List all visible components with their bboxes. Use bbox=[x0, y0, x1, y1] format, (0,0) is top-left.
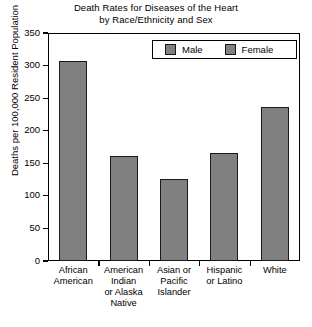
x-axis-label-1: AmericanIndianor AlaskaNative bbox=[98, 265, 148, 309]
x-axis-label-1-line-3: Native bbox=[98, 298, 148, 309]
legend-swatch-male bbox=[165, 44, 176, 55]
legend-swatch-female bbox=[225, 44, 236, 55]
bar-segment-male-0 bbox=[60, 62, 86, 128]
x-axis-label-2-line-0: Asian or bbox=[149, 265, 199, 276]
bar-segment-female-1 bbox=[111, 195, 137, 260]
bar-segment-female-0 bbox=[60, 126, 86, 260]
bar-4 bbox=[261, 107, 289, 261]
x-axis-label-2-line-1: Pacific bbox=[149, 276, 199, 287]
bar-segment-male-1 bbox=[111, 157, 137, 197]
x-axis-label-4: White bbox=[250, 265, 300, 276]
x-axis-label-0-line-0: African bbox=[48, 265, 98, 276]
bar-segment-male-2 bbox=[161, 180, 187, 209]
x-axis-label-1-line-0: American bbox=[98, 265, 148, 276]
bar-1 bbox=[110, 156, 138, 261]
x-axis-label-0: AfricanAmerican bbox=[48, 265, 98, 287]
bar-0 bbox=[59, 61, 87, 261]
chart-figure: Death Rates for Diseases of the Heart by… bbox=[0, 0, 312, 327]
x-axis-label-2: Asian orPacificIslander bbox=[149, 265, 199, 298]
bar-segment-female-2 bbox=[161, 207, 187, 260]
chart-legend: Male Female bbox=[152, 40, 297, 59]
bar-segment-male-3 bbox=[211, 154, 237, 189]
bar-2 bbox=[160, 179, 188, 261]
legend-item-male[interactable]: Male bbox=[165, 44, 203, 55]
x-axis-label-0-line-1: American bbox=[48, 276, 98, 287]
x-axis-label-3: Hispanicor Latino bbox=[199, 265, 249, 287]
bar-3 bbox=[210, 153, 238, 261]
x-axis-label-2-line-2: Islander bbox=[149, 287, 199, 298]
x-axis-label-1-line-2: or Alaska bbox=[98, 287, 148, 298]
x-axis-label-1-line-1: Indian bbox=[98, 276, 148, 287]
x-axis-label-3-line-1: or Latino bbox=[199, 276, 249, 287]
bar-segment-female-4 bbox=[262, 162, 288, 260]
legend-label-female: Female bbox=[242, 44, 274, 55]
bar-segment-female-3 bbox=[211, 187, 237, 260]
x-axis-label-3-line-0: Hispanic bbox=[199, 265, 249, 276]
y-axis-ticks: 350 300 250 200 150 100 50 0 bbox=[0, 0, 48, 327]
x-axis-label-4-line-0: White bbox=[250, 265, 300, 276]
bar-segment-male-4 bbox=[262, 108, 288, 163]
legend-label-male: Male bbox=[182, 44, 203, 55]
legend-item-female[interactable]: Female bbox=[225, 44, 274, 55]
